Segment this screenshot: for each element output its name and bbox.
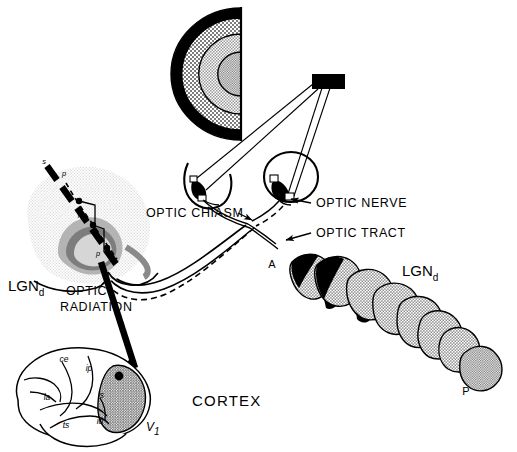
label-lgn-left-main: LGN (8, 277, 39, 294)
label-optic-tract: OPTIC TRACT (316, 226, 406, 240)
v1-injection-site (115, 372, 124, 381)
sulcus-label-ls: ls (98, 390, 105, 400)
penetration-label-p2: p (77, 209, 82, 218)
sulcus-label-ce: ce (60, 354, 69, 364)
visual-pathway-figure: s p p p ce (0, 0, 517, 452)
stimulus-bar (312, 74, 345, 89)
label-lgn-left-sub: d (39, 287, 45, 298)
label-lgn-stack-main: LGN (402, 262, 433, 279)
label-optic-radiation-line1: OPTIC (66, 284, 107, 298)
left-eye-rf-box-lower (198, 195, 206, 201)
electrode-tip-label: s (42, 157, 46, 166)
figure-canvas: s p p p ce (0, 0, 517, 452)
v1-label-sub: 1 (154, 426, 160, 437)
label-posterior: P (462, 385, 469, 397)
label-cortex: CORTEX (192, 392, 261, 409)
label-optic-nerve: OPTIC NERVE (316, 196, 407, 210)
penetration-label-p1: p (61, 169, 66, 178)
penetration-label-p3: p (95, 249, 100, 258)
label-optic-chiasm: OPTIC CHIASM (146, 206, 243, 220)
left-eye-rf-box-upper (190, 176, 197, 182)
right-eye-rf-box-upper (270, 175, 278, 182)
label-optic-radiation-line2: RADIATION (60, 300, 133, 314)
label-lgn-stack-sub: d (433, 272, 439, 283)
sulcus-label-ip: ip (86, 363, 93, 373)
sulcus-label-ts: ts (63, 420, 70, 430)
label-anterior: A (268, 258, 276, 270)
stimulus-bar-rect (312, 74, 345, 89)
sulcus-label-io: io (97, 416, 104, 426)
sulcus-label-la: la (44, 392, 51, 402)
recording-site-3 (104, 245, 110, 251)
